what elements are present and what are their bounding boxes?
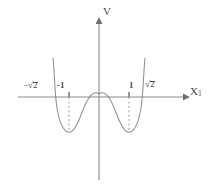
tick-label-pos-sqrt-two: √2 xyxy=(145,80,154,89)
x-axis-label-text: X xyxy=(190,85,198,97)
x-axis-label-subscript: 1 xyxy=(198,89,202,98)
tick-label-neg-one: -1 xyxy=(57,81,65,90)
plot-canvas xyxy=(0,0,209,194)
y-axis-arrowhead-icon xyxy=(96,17,103,24)
radical-pos-sqrt-two: √2 xyxy=(145,80,154,89)
tick-label-pos-one: 1 xyxy=(129,81,134,90)
double-well-potential-figure: −√2 -1 1 √2 X1 V xyxy=(0,0,209,194)
x-axis-label: X1 xyxy=(190,86,202,98)
x-axis-arrowhead-icon xyxy=(183,94,190,101)
y-axis-label: V xyxy=(103,6,111,17)
radical-bar xyxy=(150,81,155,82)
tick-label-neg-sqrt-two: −√2 xyxy=(23,81,38,90)
radical-bar xyxy=(33,82,38,83)
radical-neg-sqrt-two: √2 xyxy=(28,81,37,90)
